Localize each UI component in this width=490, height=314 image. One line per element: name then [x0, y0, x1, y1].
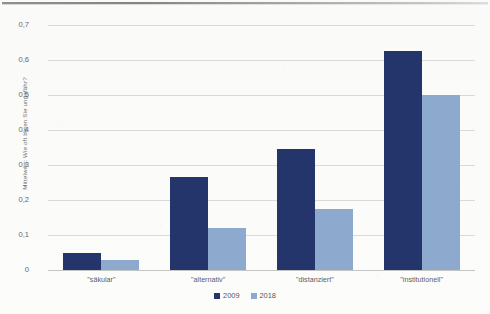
- y-axis-tick-label: 0,6: [0, 55, 29, 64]
- y-axis-tick-label: 0,2: [0, 195, 29, 204]
- bar-series-container: [48, 25, 475, 270]
- x-axis-tick-label: "distanziert": [262, 275, 369, 284]
- chart-legend: 20092018: [0, 291, 490, 300]
- bar-chart: Mittelwert: Wie oft beten Sie ungefähr? …: [0, 0, 490, 314]
- legend-label: 2009: [223, 291, 239, 300]
- plot-area: 00,10,20,30,40,50,60,7 "säkular""alterna…: [48, 25, 475, 270]
- y-axis-tick-label: 0: [0, 265, 29, 274]
- bar-2009: [170, 177, 208, 270]
- legend-item-2009: 2009: [214, 291, 239, 300]
- legend-swatch-2009: [214, 293, 220, 299]
- x-axis-tick-label: "institutionell": [368, 275, 475, 284]
- bar-2018: [208, 228, 246, 270]
- legend-label: 2018: [260, 291, 276, 300]
- y-axis-tick-label: 0,5: [0, 90, 29, 99]
- bar-2009: [384, 51, 422, 270]
- gridline: [48, 270, 475, 271]
- x-axis-tick-label: "alternativ": [155, 275, 262, 284]
- y-axis-tick-label: 0,7: [0, 20, 29, 29]
- bar-2018: [422, 95, 460, 270]
- y-axis-tick-label: 0,4: [0, 125, 29, 134]
- bar-2018: [315, 209, 353, 270]
- y-axis-tick-label: 0,1: [0, 230, 29, 239]
- y-axis-tick-label: 0,3: [0, 160, 29, 169]
- legend-swatch-2018: [251, 293, 257, 299]
- x-axis-tick-label: "säkular": [48, 275, 155, 284]
- legend-item-2018: 2018: [251, 291, 276, 300]
- bar-2009: [277, 149, 315, 270]
- bar-2009: [63, 253, 101, 271]
- bar-2018: [101, 260, 139, 271]
